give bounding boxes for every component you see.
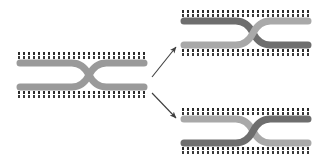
diagram-canvas <box>0 0 318 164</box>
dot-rail-bottom-a <box>182 49 310 52</box>
chromosome-recombinant-top <box>182 8 310 60</box>
dot-rail-bottom-a <box>18 91 146 94</box>
chromosome-recombinant-bottom <box>182 106 310 158</box>
chromosome-parent <box>18 50 146 102</box>
dot-rail-bottom-a <box>182 147 310 150</box>
dot-rail-bottom-b <box>182 151 310 154</box>
arrow-to-recombinant-top <box>152 47 176 77</box>
arrow-to-recombinant-bottom <box>152 93 176 118</box>
dot-rail-bottom-b <box>182 53 310 56</box>
dot-rail-bottom-b <box>18 95 146 98</box>
